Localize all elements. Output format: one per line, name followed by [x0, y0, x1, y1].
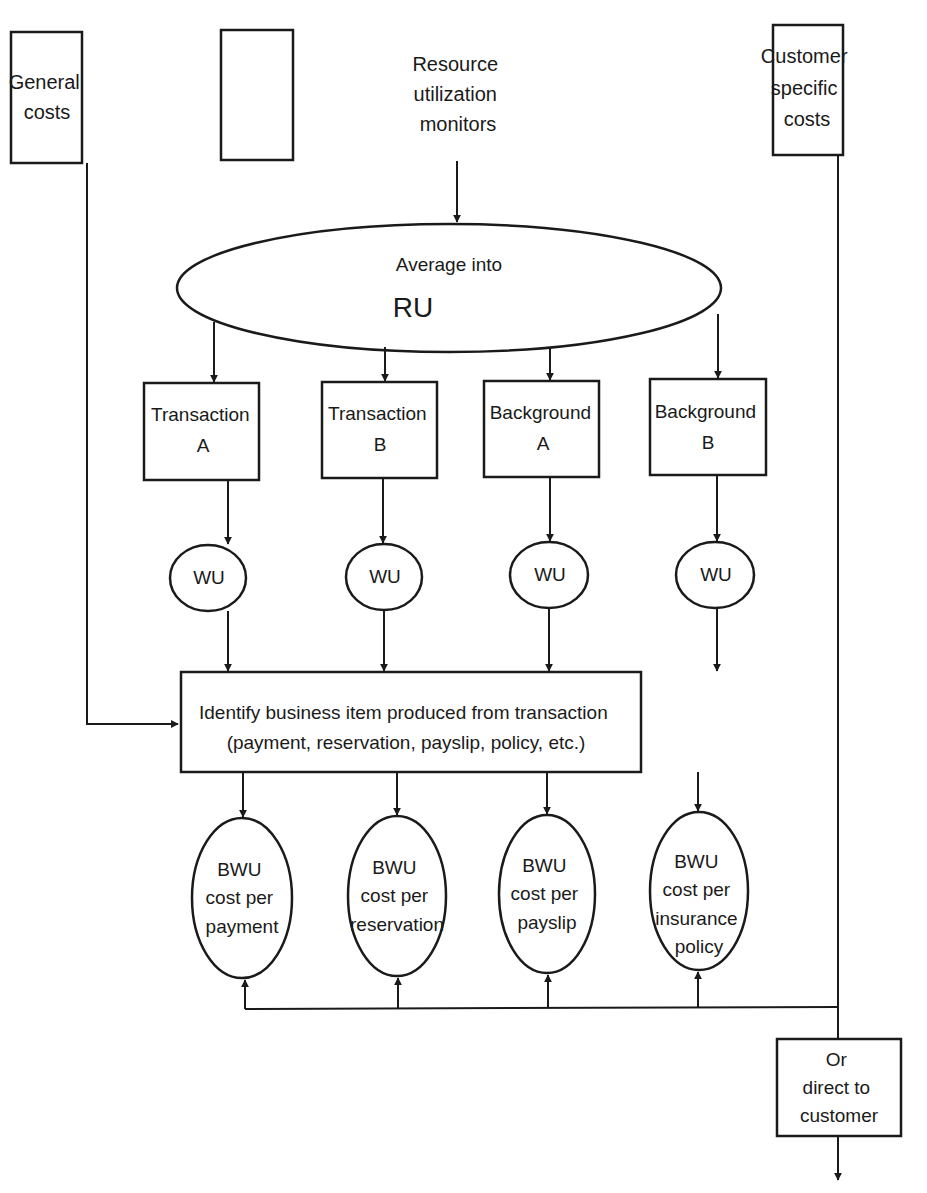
- ru-label: RU: [393, 292, 433, 323]
- cost-allocation-diagram: General costs Resource utilization monit…: [0, 0, 927, 1193]
- resource-monitors-label: Resource utilization monitors: [412, 53, 503, 135]
- transaction-a-box: [144, 383, 259, 480]
- general-costs-label: General costs: [9, 71, 86, 123]
- identify-label: Identify business item produced from tra…: [199, 702, 613, 753]
- bwu-policy-label: BWU cost per insurance policy: [655, 851, 743, 957]
- bwu-reservation-label: BWU cost per reservation: [350, 857, 444, 935]
- customer-costs-label: Customer specific costs: [761, 45, 853, 130]
- transaction-a-label: Transaction A: [151, 404, 255, 456]
- bwu-payment-label: BWU cost per payment: [206, 859, 280, 937]
- average-into-label: Average into: [396, 254, 502, 275]
- wu-label-c: WU: [534, 564, 566, 585]
- wu-label-d: WU: [700, 564, 732, 585]
- bwu-payslip-label: BWU cost per payslip: [511, 855, 584, 933]
- connector-customer-bus: [245, 1007, 838, 1009]
- average-ru-ellipse: [177, 224, 721, 352]
- transaction-b-box: [322, 382, 437, 478]
- background-b-label: Background B: [655, 401, 762, 453]
- transaction-b-label: Transaction B: [328, 403, 432, 455]
- connector-general-costs: [87, 163, 178, 724]
- background-b-box: [650, 379, 766, 475]
- general-costs-box: [11, 32, 82, 163]
- background-a-label: Background A: [490, 402, 597, 454]
- direct-to-customer-label: Or direct to customer: [800, 1049, 879, 1126]
- resource-monitors-box: [221, 30, 293, 160]
- wu-label-b: WU: [369, 566, 401, 587]
- background-a-box: [484, 381, 599, 477]
- wu-label-a: WU: [193, 567, 225, 588]
